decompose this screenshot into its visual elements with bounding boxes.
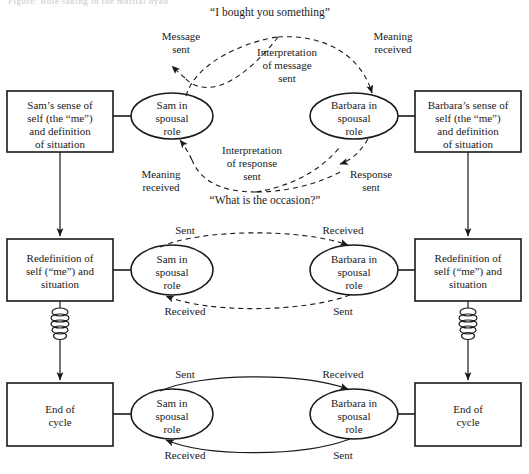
arc-received-bottom-3: [166, 439, 350, 453]
arc-message-sent-arrowhead: [172, 66, 185, 78]
ellipse-barbara-role-2: [310, 245, 398, 295]
ellipse-barbara-role-1: [310, 93, 398, 139]
arc-message-sent-loop: [186, 37, 278, 96]
arc-interpretation-message-inner: [185, 37, 278, 87]
arc-sent-top-3: [160, 377, 348, 391]
arc-response-sent-down: [340, 139, 368, 164]
arc-meaning-received-lower: [192, 160, 256, 192]
box-end-of-cycle-right: [415, 383, 521, 446]
arc-sent-top-2: [160, 233, 348, 247]
arc-interpretation-response-inner: [256, 146, 341, 192]
arc-meaning-received-arrow: [180, 140, 192, 160]
box-redefinition-left: [7, 239, 113, 301]
box-redefinition-right: [415, 239, 521, 301]
box-barbara-self: [415, 91, 521, 152]
ellipse-sam-role-2: [131, 245, 213, 295]
diagram-canvas: Figure: Role-taking in the marital dyad: [0, 0, 529, 474]
ellipse-barbara-role-3: [310, 389, 398, 439]
diagram-vector-layer: [0, 0, 529, 474]
ellipse-sam-role-1: [131, 93, 213, 139]
arc-received-bottom-2: [166, 295, 350, 309]
spring-left-2-3: [51, 301, 69, 380]
spring-right-2-3: [459, 301, 477, 380]
arc-meaning-received-top: [278, 37, 372, 93]
ellipse-sam-role-3: [131, 389, 213, 439]
box-sam-self: [7, 91, 113, 152]
box-end-of-cycle-left: [7, 383, 113, 446]
